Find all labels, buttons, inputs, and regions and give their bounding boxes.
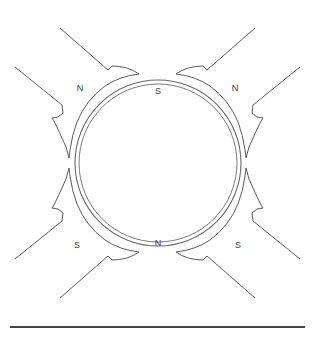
armature-inner-circle <box>79 84 237 242</box>
machine-cross-section-diagram: N N S S S N <box>0 0 315 340</box>
armature-assembly <box>75 80 241 246</box>
pole-label-top-right: N <box>232 83 239 93</box>
pole-label-bottom-right: S <box>235 240 241 250</box>
pole-label-bottom-left: S <box>74 240 80 250</box>
armature-outer-circle <box>75 80 241 246</box>
armature-label-top: S <box>155 86 161 96</box>
diagram-root: N N S S S N <box>0 0 315 340</box>
armature-label-bottom: N <box>155 238 162 248</box>
pole-label-top-left: N <box>77 83 84 93</box>
